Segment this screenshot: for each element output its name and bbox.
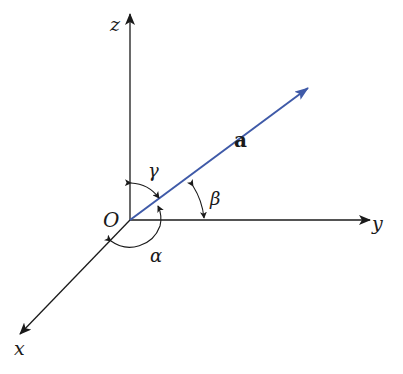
direction-angles-diagram: z y x O a γ β α	[0, 0, 403, 374]
gamma-arc	[131, 183, 159, 198]
vector-a-label: a	[234, 128, 247, 152]
origin-label: O	[103, 208, 119, 232]
gamma-label: γ	[148, 160, 159, 181]
x-axis	[20, 220, 130, 334]
beta-label: β	[209, 188, 220, 209]
alpha-label: α	[150, 245, 162, 266]
beta-arc	[193, 186, 204, 218]
x-axis-label: x	[14, 337, 25, 359]
y-axis-label: y	[371, 212, 383, 234]
z-axis-label: z	[109, 13, 121, 35]
